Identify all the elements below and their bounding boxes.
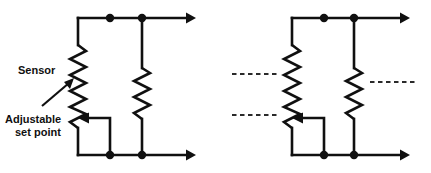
left-junction-dot-bottom-wiper bbox=[106, 151, 114, 159]
right-junction-dot-top-wiper bbox=[320, 14, 328, 22]
right-junction-dot-bottom-wiper bbox=[320, 151, 328, 159]
right-junction-dot-bottom-fixed bbox=[350, 151, 358, 159]
left-junction-dot-bottom-fixed bbox=[138, 151, 146, 159]
left-fixed-resistor-zigzag bbox=[134, 68, 150, 119]
left-junction-dot-top-fixed bbox=[138, 14, 146, 22]
right-wiper-lead bbox=[302, 118, 324, 155]
schematic-page: Sensor Adjustable set point bbox=[0, 0, 431, 173]
left-circuit bbox=[42, 13, 196, 161]
adjustable-set-point-label: Adjustable set point bbox=[5, 113, 61, 139]
left-wiper-lead bbox=[88, 118, 110, 155]
adjustable-set-point-label-line1: Adjustable bbox=[5, 113, 61, 125]
sensor-label: Sensor bbox=[18, 64, 55, 77]
right-bottom-arrow-head bbox=[400, 150, 410, 161]
right-fixed-resistor-zigzag bbox=[346, 68, 362, 119]
left-top-arrow-head bbox=[186, 13, 196, 24]
right-circuit bbox=[232, 13, 418, 161]
left-junction-dot-top-wiper bbox=[106, 14, 114, 22]
left-bottom-arrow-head bbox=[186, 150, 196, 161]
right-junction-dot-top-fixed bbox=[350, 14, 358, 22]
circuit-diagram-canvas bbox=[0, 0, 431, 173]
sensor-pointer-arrow-shaft bbox=[42, 83, 69, 106]
right-top-arrow-head bbox=[400, 13, 410, 24]
adjustable-set-point-label-line2: set point bbox=[5, 126, 61, 139]
